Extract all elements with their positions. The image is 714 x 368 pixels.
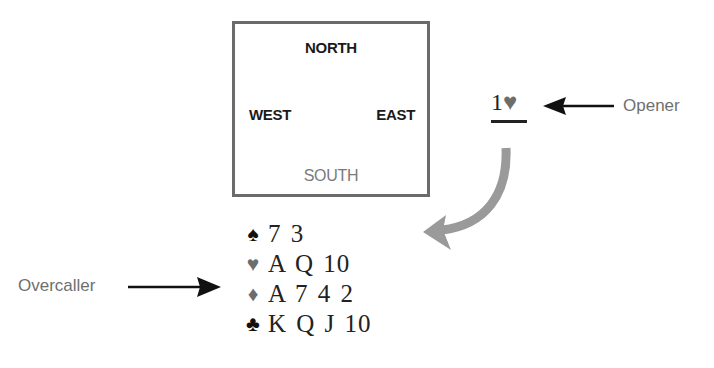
spade-suit-icon: ♠ — [244, 219, 262, 249]
overcaller-arrow-icon — [128, 277, 221, 297]
hand-row-hearts: ♥ A Q 10 — [244, 249, 372, 279]
club-suit-icon: ♣ — [244, 309, 262, 339]
diamond-cards: A 7 4 2 — [268, 279, 354, 309]
heart-suit-icon: ♥ — [244, 249, 262, 279]
club-cards: K Q J 10 — [268, 309, 372, 339]
hand-row-clubs: ♣ K Q J 10 — [244, 309, 372, 339]
hand-row-spades: ♠ 7 3 — [244, 219, 372, 249]
hand-row-diamonds: ♦ A 7 4 2 — [244, 279, 372, 309]
overcaller-hand: ♠ 7 3 ♥ A Q 10 ♦ A 7 4 2 ♣ K Q J 10 — [244, 219, 372, 339]
curved-arrow-icon — [423, 148, 506, 250]
opener-arrow-icon — [543, 97, 614, 115]
spade-cards: 7 3 — [268, 219, 304, 249]
heart-cards: A Q 10 — [268, 249, 350, 279]
diamond-suit-icon: ♦ — [244, 279, 262, 309]
